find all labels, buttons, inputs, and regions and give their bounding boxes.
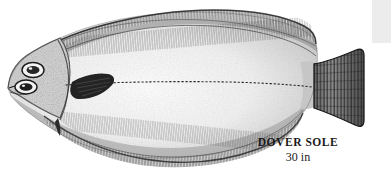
upper-eye bbox=[22, 63, 44, 78]
illustration-page: DOVER SOLE 30 in bbox=[0, 0, 391, 175]
corner-gray-block bbox=[372, 0, 391, 43]
species-size-label: 30 in bbox=[243, 150, 353, 165]
figure-caption: DOVER SOLE 30 in bbox=[243, 135, 353, 165]
lower-eye bbox=[15, 80, 37, 94]
caudal-fin bbox=[310, 40, 370, 140]
species-common-name: DOVER SOLE bbox=[243, 135, 353, 149]
